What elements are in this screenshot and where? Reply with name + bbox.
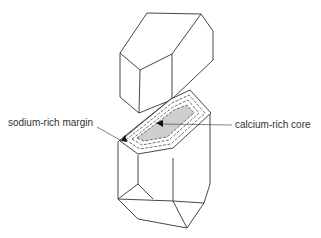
upper-crystal-fragment xyxy=(120,13,213,113)
margin-leader-line xyxy=(97,127,120,140)
sodium-rich-margin-label: sodium-rich margin xyxy=(8,117,93,129)
calcium-rich-core-label: calcium-rich core xyxy=(235,119,311,131)
